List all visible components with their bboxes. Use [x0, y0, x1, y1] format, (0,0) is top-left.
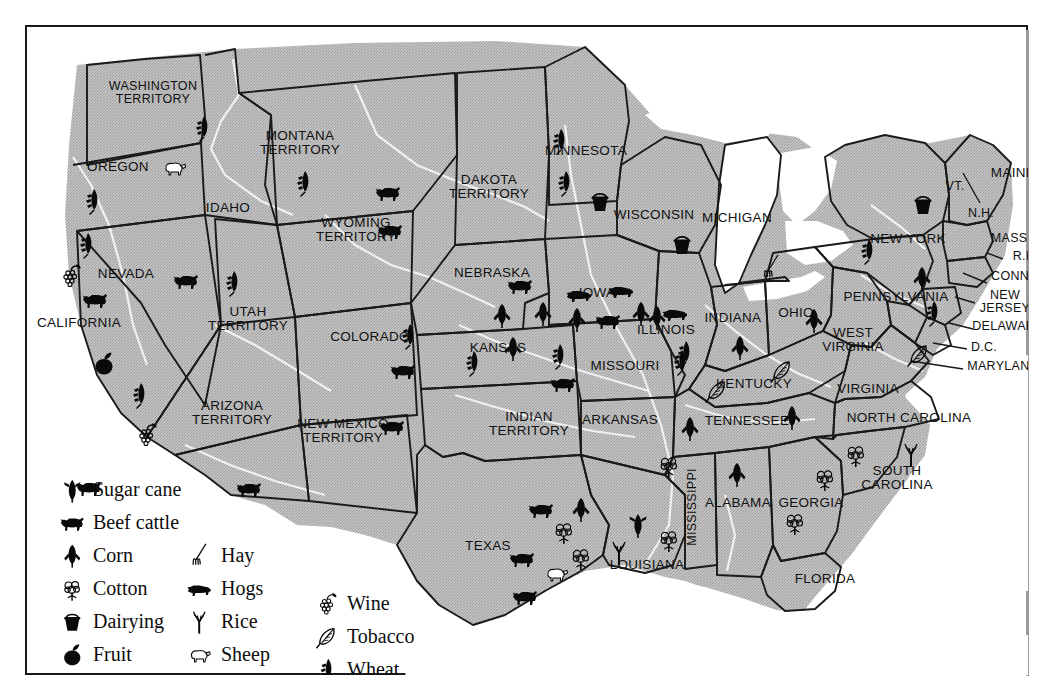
legend-label: Sheep: [221, 643, 270, 666]
beef-cattle-icon: [58, 509, 87, 542]
legend-label: Hay: [221, 544, 254, 567]
legend-label: Beef cattle: [93, 511, 179, 534]
corn-icon: [907, 264, 937, 298]
wheat-icon: [545, 126, 575, 160]
corn-icon: [777, 403, 807, 437]
beef-cattle-icon: [388, 356, 418, 390]
cotton-icon: [780, 508, 810, 542]
dairying-icon: [908, 190, 938, 224]
fruit-icon: [58, 641, 87, 674]
corn-icon: [58, 542, 87, 575]
rice-icon: [604, 538, 634, 572]
corn-icon: [528, 299, 558, 333]
wheat-icon: [853, 236, 883, 270]
beef-cattle-icon: [171, 266, 201, 300]
wine-icon: [132, 420, 162, 454]
wheat-icon: [218, 268, 248, 302]
beef-cattle-icon: [375, 216, 405, 250]
corn-icon: [487, 301, 517, 335]
dairying-icon: [667, 230, 697, 264]
wheat-icon: [394, 321, 424, 355]
sugar-cane-icon: [58, 476, 87, 509]
cotton-icon: [58, 575, 87, 608]
corn-icon: [498, 334, 528, 368]
beef-cattle-icon: [510, 582, 540, 616]
corn-icon: [562, 305, 592, 339]
rice-icon: [896, 440, 926, 474]
sheep-icon: [159, 153, 189, 187]
beef-cattle-icon: [548, 369, 578, 403]
beef-cattle-icon: [507, 544, 537, 578]
wheat-icon: [550, 168, 580, 202]
legend-label: Tobacco: [347, 625, 414, 648]
legend-label: Corn: [93, 544, 133, 567]
dairying-icon: [58, 608, 87, 641]
wheat-icon: [918, 298, 948, 332]
legend-label: Wine: [347, 592, 390, 615]
legend-label: Cotton: [93, 577, 147, 600]
map-canvas: WASHINGTON TERRITORYOREGONIDAHOMONTANA T…: [25, 25, 1028, 675]
sheep-icon: [185, 641, 214, 674]
legend-label: Hogs: [221, 577, 263, 600]
wheat-icon: [289, 168, 319, 202]
legend-label: Sugar cane: [93, 478, 181, 501]
wheat-icon: [78, 186, 108, 220]
wheat-icon: [125, 380, 155, 414]
hogs-icon: [185, 575, 214, 608]
wine-icon: [313, 590, 342, 623]
tobacco-icon: [702, 376, 732, 410]
corn-icon: [722, 460, 752, 494]
rice-icon: [185, 608, 214, 641]
sheep-icon: [541, 559, 571, 593]
wheat-icon: [313, 656, 342, 675]
legend-label: Wheat: [347, 658, 399, 675]
legend-label: Dairying: [93, 610, 164, 633]
wheat-icon: [670, 338, 700, 372]
tobacco-icon: [767, 356, 797, 390]
legend-label: Rice: [221, 610, 258, 633]
wheat-icon: [458, 348, 488, 382]
legend-label: Fruit: [93, 643, 132, 666]
wheat-icon: [72, 230, 102, 264]
cotton-icon: [654, 525, 684, 559]
cotton-icon: [841, 440, 871, 474]
beef-cattle-icon: [234, 474, 264, 508]
fruit-icon: [89, 349, 119, 383]
beef-cattle-icon: [593, 306, 623, 340]
cotton-icon: [654, 451, 684, 485]
hogs-icon: [660, 299, 690, 333]
wheat-icon: [188, 113, 218, 147]
map-figure: WASHINGTON TERRITORYOREGONIDAHOMONTANA T…: [0, 0, 1054, 693]
corn-icon: [725, 333, 755, 367]
tobacco-icon: [904, 340, 934, 374]
beef-cattle-icon: [373, 178, 403, 212]
dairying-icon: [585, 187, 615, 221]
tobacco-icon: [313, 623, 342, 656]
corn-icon: [675, 414, 705, 448]
beef-cattle-icon: [80, 285, 110, 319]
cotton-icon: [810, 464, 840, 498]
beef-cattle-icon: [377, 412, 407, 446]
hay-icon: [185, 542, 214, 575]
corn-icon: [799, 306, 829, 340]
hay-icon: [756, 253, 786, 287]
